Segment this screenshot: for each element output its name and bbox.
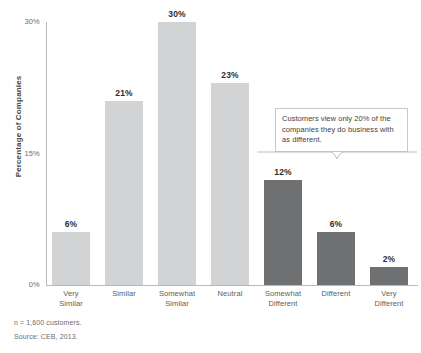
bar-value-label: 23% xyxy=(211,70,249,80)
footnote-source: Source: CEB, 2013. xyxy=(14,333,78,340)
bar-value-label: 12% xyxy=(264,167,302,177)
y-axis-title: Percentage of Companies xyxy=(14,47,23,207)
y-tick-label: 30% xyxy=(6,17,40,26)
bar xyxy=(264,180,302,285)
footnote-sample-size: n = 1,600 customers. xyxy=(14,319,82,326)
bar-value-label: 30% xyxy=(158,9,196,19)
bar xyxy=(370,267,408,285)
category-label: SomewhatDifferent xyxy=(256,289,310,308)
category-label: VerySimilar xyxy=(44,289,98,308)
y-tick-label: 15% xyxy=(6,149,40,158)
callout-box: Customers view only 20% of the companies… xyxy=(275,108,408,152)
category-label: SomewhatSimilar xyxy=(150,289,204,308)
bar xyxy=(158,22,196,285)
bar xyxy=(52,232,90,285)
bar-chart: Percentage of Companies 0%15%30% 6%21%30… xyxy=(0,0,421,353)
y-tick-label: 0% xyxy=(6,280,40,289)
bar-value-label: 21% xyxy=(105,88,143,98)
bar-value-label: 6% xyxy=(317,219,355,229)
bar xyxy=(211,83,249,285)
category-label: VeryDifferent xyxy=(362,289,416,308)
callout-text: Customers view only 20% of the companies… xyxy=(276,114,407,146)
bar-value-label: 6% xyxy=(52,219,90,229)
bar xyxy=(105,101,143,285)
y-axis-line xyxy=(46,22,47,286)
category-label: Similar xyxy=(97,289,151,299)
bar xyxy=(317,232,355,285)
category-label: Different xyxy=(309,289,363,299)
x-axis-baseline xyxy=(46,285,418,286)
category-label: Neutral xyxy=(203,289,257,299)
bar-value-label: 2% xyxy=(370,254,408,264)
brace-icon xyxy=(256,150,418,162)
